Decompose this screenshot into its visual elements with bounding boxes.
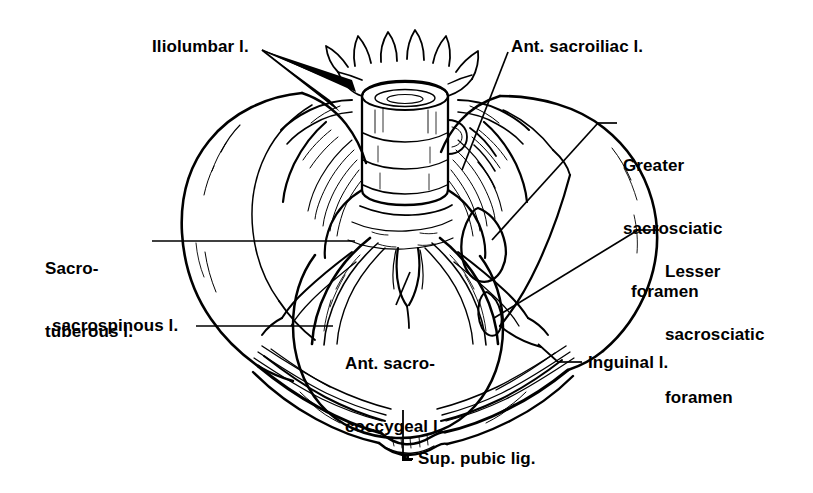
sacrococcygeal-line-1: Ant. sacro-	[345, 353, 443, 374]
lesser-line-3: foramen	[665, 387, 765, 408]
iliolumbar-ligament-label: Iliolumbar l.	[152, 36, 249, 57]
greater-line-1: Greater	[623, 155, 723, 176]
anterior-sacroiliac-ligament-label: Ant. sacroiliac l.	[511, 36, 643, 57]
sacrotuberous-line-1: Sacro-	[45, 258, 133, 279]
lesser-line-1: Lesser	[665, 261, 765, 282]
sacrococcygeal-line-2: coccygeal l.	[345, 416, 443, 437]
lesser-line-2: sacrosciatic	[665, 324, 765, 345]
lesser-sacrosciatic-foramen-label: Lesser sacrosciatic foramen	[665, 219, 765, 450]
sacrotuberous-ligament-label: Sacro- tuberous l.	[45, 216, 133, 384]
anatomical-figure: Iliolumbar l. Ant. sacroiliac l. Greater…	[0, 0, 813, 493]
sacrospinous-ligament-label: sacrospinous l.	[52, 315, 178, 336]
superior-pubic-ligament-label: Sup. pubic lig.	[418, 448, 536, 469]
inguinal-ligament-label: Inguinal l.	[588, 352, 668, 373]
